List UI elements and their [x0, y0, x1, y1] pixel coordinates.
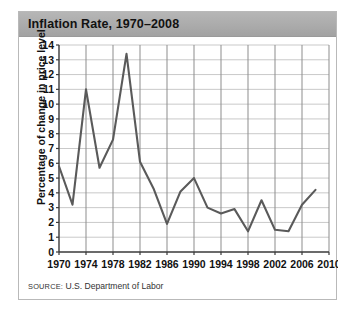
source-note: SOURCE: U.S. Department of Labor [28, 281, 163, 291]
x-tick-labels: 1970197419781982198619901994199820022006… [47, 252, 338, 270]
y-tick-label: 2 [48, 216, 54, 228]
y-tick-label: 10 [42, 98, 54, 110]
page-title: Inflation Rate, 1970–2008 [28, 17, 179, 31]
x-tick-label: 1994 [209, 258, 233, 270]
y-tick-label: 4 [48, 187, 54, 199]
x-tick-label: 1974 [74, 258, 98, 270]
inflation-data-line [59, 54, 316, 231]
y-tick-label: 11 [43, 83, 54, 95]
y-tick-label: 14 [42, 39, 54, 51]
y-tick-label: 9 [48, 113, 54, 125]
y-tick-label: 7 [48, 142, 54, 154]
y-tick-label: 8 [48, 128, 54, 140]
y-tick-label: 0 [48, 246, 54, 258]
x-tick-label: 1986 [155, 258, 179, 270]
figure-title-bar: Inflation Rate, 1970–2008 [19, 12, 336, 37]
source-label: SOURCE: [28, 282, 63, 291]
x-tick-label: 1982 [128, 258, 152, 270]
x-tick-label: 1970 [47, 258, 71, 270]
y-tick-label: 13 [42, 54, 54, 66]
line-chart-svg: 01234567891011121314 1970197419781982198… [19, 37, 338, 301]
x-tick-label: 1990 [182, 258, 206, 270]
y-tick-labels: 01234567891011121314 [42, 39, 59, 258]
x-tick-label: 1978 [101, 258, 125, 270]
x-tick-label: 2006 [290, 258, 314, 270]
y-tick-label: 5 [48, 172, 54, 184]
y-tick-label: 12 [42, 68, 54, 80]
x-tick-label: 1998 [236, 258, 260, 270]
y-tick-label: 3 [48, 201, 54, 213]
plot-area: Percentage of change in price level 0123… [19, 37, 338, 301]
inflation-rate-figure: Inflation Rate, 1970–2008 Percentage of … [18, 11, 337, 300]
x-tick-label: 2010 [317, 258, 338, 270]
source-text: U.S. Department of Labor [63, 281, 163, 291]
y-tick-label: 6 [48, 157, 54, 169]
x-tick-label: 2002 [263, 258, 287, 270]
y-tick-label: 1 [48, 231, 54, 243]
